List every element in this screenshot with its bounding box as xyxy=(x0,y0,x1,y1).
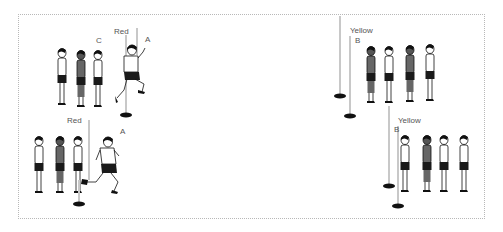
player-standing xyxy=(94,50,103,107)
player-standing xyxy=(460,135,469,192)
label-red-bottom: Red xyxy=(67,117,82,125)
group-bottom-right xyxy=(383,106,469,209)
label-red-top: Red xyxy=(114,28,129,36)
label-c: C xyxy=(96,37,102,45)
player-standing xyxy=(401,135,410,192)
player-standing xyxy=(406,45,415,102)
label-a-top: A xyxy=(145,36,150,44)
player-standing xyxy=(385,46,394,103)
label-yellow-top: Yellow xyxy=(350,27,373,35)
group-bottom-left xyxy=(35,120,120,207)
yellow-pole-back xyxy=(334,16,346,99)
player-standing xyxy=(423,135,432,192)
yellow-pole-back xyxy=(383,106,395,189)
player-standing xyxy=(440,135,449,192)
player-standing xyxy=(58,48,67,105)
player-standing xyxy=(56,136,65,193)
label-yellow-bottom: Yellow xyxy=(398,117,421,125)
label-b-bottom: B xyxy=(394,126,399,134)
label-b-top: B xyxy=(355,37,360,45)
player-standing xyxy=(35,136,44,193)
player-a-climbing xyxy=(115,45,145,103)
player-a-running xyxy=(81,137,119,194)
label-a-bottom: A xyxy=(120,128,125,136)
pole-base xyxy=(73,202,85,207)
player-standing xyxy=(77,50,86,107)
player-standing xyxy=(426,44,435,101)
yellow-pole-front xyxy=(344,36,356,119)
player-standing xyxy=(367,46,376,103)
